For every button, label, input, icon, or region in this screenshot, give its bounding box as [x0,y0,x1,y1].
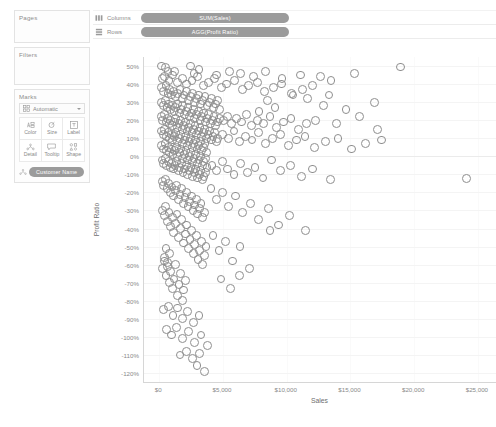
scatter-mark[interactable] [225,67,234,76]
scatter-mark[interactable] [210,74,219,83]
scatter-mark[interactable] [259,174,268,183]
scatter-mark[interactable] [165,249,174,258]
scatter-mark[interactable] [325,91,334,100]
scatter-mark[interactable] [373,125,382,134]
scatter-mark[interactable] [264,204,273,213]
filters-shelf[interactable]: Filters [14,47,90,85]
scatter-mark[interactable] [303,94,312,103]
scatter-mark[interactable] [287,114,296,123]
scatter-mark[interactable] [342,105,351,114]
scatter-mark[interactable] [289,91,298,100]
scatter-mark[interactable] [224,202,233,211]
scatter-mark[interactable] [350,69,359,78]
scatter-mark[interactable] [316,72,325,81]
marks-shape-button[interactable]: Shape [63,140,85,162]
scatter-mark[interactable] [226,284,235,293]
marks-pill-customer-name[interactable]: Customer Name [29,167,84,177]
scatter-mark[interactable] [308,81,317,90]
scatter-mark[interactable] [190,338,199,347]
scatter-mark[interactable] [201,139,210,148]
scatter-mark[interactable] [236,242,245,251]
scatter-mark[interactable] [255,107,264,116]
rows-shelf[interactable]: Rows AGG(Profit Ratio) [93,25,496,39]
plot-area[interactable] [143,57,496,382]
scatter-mark[interactable] [332,119,341,128]
scatter-mark[interactable] [164,302,173,311]
scatter-mark[interactable] [277,80,286,89]
scatter-mark[interactable] [209,231,218,240]
scatter-mark[interactable] [215,246,224,255]
columns-pill-sum-sales[interactable]: SUM(Sales) [141,13,289,23]
scatter-mark[interactable] [246,199,255,208]
scatter-mark[interactable] [184,327,193,336]
scatter-mark[interactable] [248,136,257,145]
scatter-mark[interactable] [253,78,262,87]
scatter-mark[interactable] [245,264,254,273]
scatter-mark[interactable] [396,63,405,72]
scatter-mark[interactable] [183,307,192,316]
scatter-mark[interactable] [221,237,230,246]
scatter-mark[interactable] [254,128,263,137]
scatter-mark[interactable] [276,130,285,139]
scatter-mark[interactable] [377,136,386,145]
scatter-mark[interactable] [198,260,207,269]
scatter-mark[interactable] [201,168,210,177]
scatter-mark[interactable] [172,323,181,332]
scatter-mark[interactable] [228,257,237,266]
scatter-mark[interactable] [213,96,222,105]
scatter-mark[interactable] [259,119,268,128]
scatter-mark[interactable] [347,145,356,154]
pages-shelf[interactable]: Pages [14,10,90,43]
scatter-mark[interactable] [334,134,343,143]
scatter-mark[interactable] [200,367,209,376]
scatter-mark[interactable] [212,195,221,204]
scatter-mark[interactable] [244,81,253,90]
scatter-mark[interactable] [197,331,206,340]
scatter-mark[interactable] [179,286,188,295]
scatter-mark[interactable] [237,118,246,127]
scatter-mark[interactable] [285,211,294,220]
scatter-mark[interactable] [370,98,379,107]
scatter-mark[interactable] [231,192,240,201]
marks-label-button[interactable]: Label [63,118,85,140]
scatter-mark[interactable] [286,161,295,170]
scatter-mark[interactable] [266,226,275,235]
columns-shelf[interactable]: Columns SUM(Sales) [93,10,496,25]
marks-size-button[interactable]: Size [42,118,64,140]
scatter-mark[interactable] [361,139,370,148]
scatter-mark[interactable] [302,119,311,128]
scatter-mark[interactable] [236,159,245,168]
marks-color-button[interactable]: Color [20,118,42,140]
scatter-mark[interactable] [171,260,180,269]
rows-pill-agg-profit-ratio[interactable]: AGG(Profit Ratio) [141,27,289,37]
scatter-mark[interactable] [254,215,263,224]
scatter-mark[interactable] [238,208,247,217]
scatter-mark[interactable] [224,134,233,143]
scatter-mark[interactable] [200,251,209,260]
marks-tooltip-button[interactable]: Tooltip [42,140,64,162]
mark-type-dropdown[interactable]: Automatic [19,103,85,114]
scatter-mark[interactable] [263,96,272,105]
scatter-mark[interactable] [297,172,306,181]
scatter-mark[interactable] [301,226,310,235]
scatter-mark[interactable] [301,132,310,141]
scatter-mark[interactable] [267,156,276,165]
scatter-mark[interactable] [169,311,178,320]
scatter-mark[interactable] [251,163,260,172]
scatter-mark[interactable] [173,304,182,313]
scatter-mark[interactable] [260,87,269,96]
scatter-mark[interactable] [218,188,227,197]
scatter-mark[interactable] [298,85,307,94]
scatter-mark[interactable] [274,221,283,230]
scatter-mark[interactable] [310,143,319,152]
scatter-mark[interactable] [266,112,275,121]
scatter-mark[interactable] [195,311,204,320]
scatter-mark[interactable] [202,242,211,251]
scatter-mark[interactable] [284,141,293,150]
scatter-mark[interactable] [181,276,190,285]
scatter-mark[interactable] [235,271,244,280]
scatter-mark[interactable] [230,170,239,179]
scatter-mark[interactable] [296,71,305,80]
scatter-mark[interactable] [203,341,212,350]
scatter-mark[interactable] [230,127,239,136]
